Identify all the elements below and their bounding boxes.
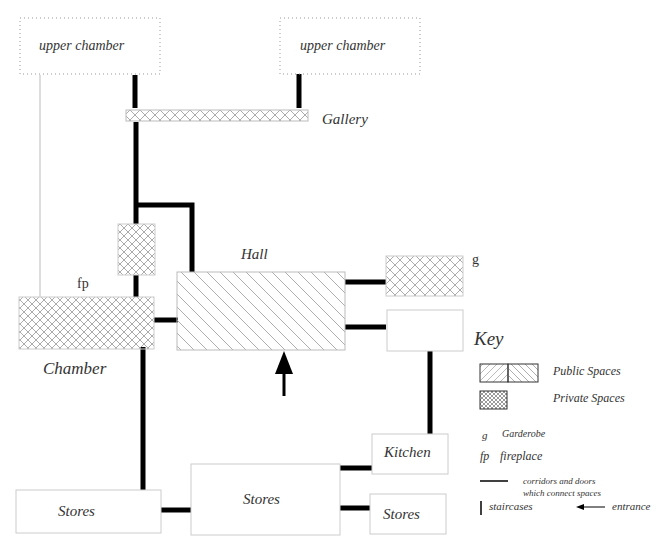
chamber-label: Chamber (43, 359, 106, 379)
garderobe-room (386, 256, 463, 296)
hall-label: Hall (241, 246, 268, 263)
key-fp-abbr: fp (480, 449, 489, 464)
unlabeled-room (387, 310, 463, 351)
key-private-label: Private Spaces (553, 391, 625, 406)
garderobe-marker: g (472, 252, 479, 268)
key-corridors-line2: which connect spaces (523, 487, 601, 500)
key-entrance-label: entrance (612, 500, 650, 512)
key-public-label: Public Spaces (553, 364, 621, 379)
stores-center-label: Stores (243, 491, 280, 508)
upper-chamber-right-label: upper chamber (300, 38, 385, 54)
hall-room (177, 272, 345, 350)
key-title: Key (474, 328, 504, 350)
staircase-block (118, 224, 155, 275)
key-public-swatch-a (480, 364, 508, 382)
gallery-label: Gallery (322, 111, 368, 128)
kitchen-label: Kitchen (384, 444, 431, 461)
fireplace-marker: fp (77, 276, 89, 292)
key-staircases-label: staircases (489, 500, 533, 512)
key-fireplace-label: fireplace (500, 449, 542, 464)
entrance-arrow-head (275, 351, 293, 374)
key-private-swatch (480, 391, 507, 409)
key-entrance-arrow-head (576, 504, 584, 510)
stores-right-label: Stores (383, 506, 420, 523)
key-garderobe-label: Garderobe (502, 428, 545, 439)
gallery-room (126, 110, 308, 121)
key-public-swatch-b (508, 364, 538, 382)
floor-plan-diagram (0, 0, 657, 545)
key-g-abbr: g (482, 429, 488, 441)
upper-chamber-left-label: upper chamber (39, 38, 124, 54)
stores-left-label: Stores (58, 503, 95, 520)
chamber-room (19, 297, 154, 349)
